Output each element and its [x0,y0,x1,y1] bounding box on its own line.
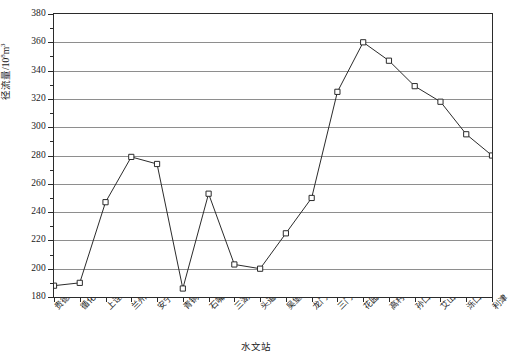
data-point-marker [361,40,366,45]
y-axis-title: 径流量/108m3 [0,0,12,100]
y-axis-title-exp2: 3 [0,43,7,47]
y-axis-tick-label: 340 [31,65,46,75]
data-point-marker [129,154,134,159]
data-point-marker [103,200,108,205]
y-axis-tick-label: 320 [31,93,46,103]
y-axis-title-unit: m [1,47,11,54]
y-axis-tick-label: 280 [31,150,46,160]
y-axis-tick-label: 220 [31,234,46,244]
data-point-marker [412,84,417,89]
y-axis-tick-label: 200 [31,263,46,273]
data-point-marker [232,262,237,267]
data-point-marker [154,161,159,166]
runoff-line-chart: 径流量/108m3 180200220240260280300320340360… [0,0,512,362]
data-point-marker [309,195,314,200]
data-point-marker [206,191,211,196]
y-axis-tick-label: 300 [31,121,46,131]
y-axis-tick-label: 380 [31,8,46,18]
y-axis-tick-label: 180 [31,291,46,301]
data-point-marker [180,286,185,291]
data-point-marker [283,231,288,236]
y-axis-tick-label: 260 [31,178,46,188]
x-axis-title: 水文站 [0,339,512,353]
y-axis-tick-label: 360 [31,36,46,46]
data-point-marker [54,283,57,288]
data-point-marker [386,58,391,63]
data-point-marker [335,89,340,94]
series-line [54,42,492,288]
y-axis-title-text: 径流量/10 [1,58,11,100]
data-point-marker [438,99,443,104]
data-point-marker [77,280,82,285]
data-point-marker [258,266,263,271]
data-series-layer [54,14,492,297]
data-point-marker [489,153,492,158]
y-axis-title-exp1: 8 [0,54,7,58]
y-axis-tick-label: 240 [31,206,46,216]
plot-area [53,13,493,298]
data-point-marker [464,132,469,137]
